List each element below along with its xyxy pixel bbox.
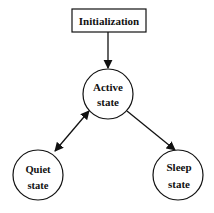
active-state-label-line2: state	[97, 96, 119, 108]
sleep-state-label-line2: state	[168, 178, 190, 190]
sleep-state-node: Sleep state	[153, 150, 203, 200]
quiet-state-node: Quiet state	[13, 150, 63, 200]
initialization-node: Initialization	[72, 9, 146, 32]
quiet-state-label-line2: state	[28, 180, 49, 191]
active-state-node: Active state	[83, 69, 133, 119]
active-state-label-line1: Active	[93, 81, 123, 93]
edge-active-quiet	[55, 111, 89, 151]
initialization-label: Initialization	[79, 15, 140, 27]
quiet-state-label-line1: Quiet	[25, 164, 51, 175]
edge-active-to-sleep	[127, 111, 175, 150]
state-diagram: Initialization Active state Quiet state …	[0, 0, 214, 213]
sleep-state-label-line1: Sleep	[166, 161, 191, 173]
